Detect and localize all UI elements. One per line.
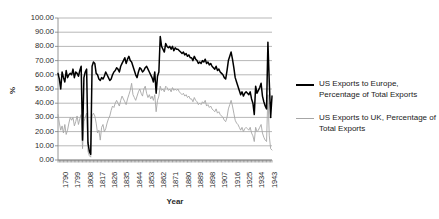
- legend-entry-uk: US Exports to UK, Percentage of Total Ex…: [296, 113, 439, 134]
- x-axis-tick-label: 1862: [159, 172, 168, 188]
- chart-container: % Year 100.0090.0080.0070.0060.0050.0040…: [0, 0, 439, 219]
- x-axis-tick-label: 1808: [86, 172, 95, 188]
- legend-label-europe: US Exports to Europe, Percentage of Tota…: [319, 79, 439, 100]
- x-axis-tick-label: 1871: [171, 172, 180, 188]
- chart-legend: US Exports to Europe, Percentage of Tota…: [296, 79, 439, 147]
- x-axis-tick-label: 1934: [257, 172, 266, 188]
- x-axis-tick-label: 1889: [196, 172, 205, 188]
- x-axis-tick-label: 1925: [245, 172, 254, 188]
- x-axis-tick-label: 1790: [61, 172, 70, 188]
- x-axis-tick-label: 1916: [233, 172, 242, 188]
- legend-entry-europe: US Exports to Europe, Percentage of Tota…: [296, 79, 439, 100]
- x-axis-tick-label: 1943: [270, 172, 279, 188]
- x-axis-tick-label: 1826: [110, 172, 119, 188]
- legend-label-uk: US Exports to UK, Percentage of Total Ex…: [319, 113, 439, 134]
- x-axis-tick-label: 1898: [208, 172, 217, 188]
- x-axis-tick-label: 1799: [73, 172, 82, 188]
- legend-line-swatch-uk-icon: [296, 118, 314, 119]
- x-axis-tick-label: 1835: [122, 172, 131, 188]
- legend-line-swatch-europe-icon: [296, 84, 314, 86]
- x-axis-tick-label: 1907: [220, 172, 229, 188]
- x-axis-tick-label: 1853: [147, 172, 156, 188]
- x-axis-tick-label: 1880: [184, 172, 193, 188]
- x-axis-tick-label: 1817: [98, 172, 107, 188]
- x-axis-tick-label: 1844: [135, 172, 144, 188]
